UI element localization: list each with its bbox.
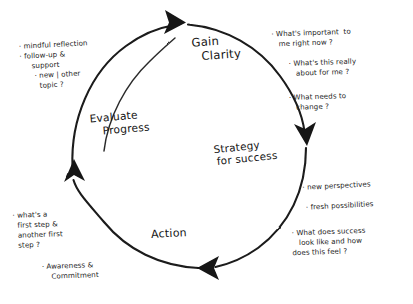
phase-action-line1: Action <box>151 226 188 241</box>
annotation-action-first-step: · what's a first step & another first st… <box>12 209 63 251</box>
arrow-left-head <box>64 159 85 182</box>
arc-action-to-evaluate <box>74 180 199 268</box>
annotation-strategy-success-question: · What does success look like and how do… <box>291 226 366 259</box>
arrow-top-head <box>164 10 186 34</box>
annotation-action-awareness: · Awareness & Commitment <box>42 260 99 282</box>
annotation-strategy-perspectives: · new perspectives · fresh possibilities <box>302 179 374 213</box>
annotation-clarity-questions: · What's important to me right now ? · W… <box>271 27 357 80</box>
phase-label-evaluate-progress: EvaluateProgress <box>89 107 150 137</box>
annotation-clarity-change-question: · What needs to change ? <box>289 91 347 113</box>
phase-label-gain-clarity: GainClarity <box>191 33 241 64</box>
phase-label-action: Action <box>151 227 188 242</box>
arrow-right-head <box>294 122 316 146</box>
annotation-evaluate-notes: · mindful reflection · follow-up & suppo… <box>19 38 90 92</box>
